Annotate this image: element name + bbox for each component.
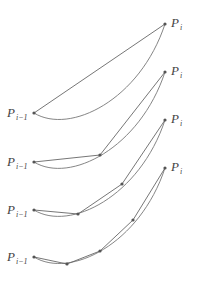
vertex-point: [98, 249, 101, 252]
vertex-point: [163, 166, 166, 169]
start-point-label: Pi−1: [6, 202, 28, 219]
vertex-point: [163, 70, 166, 73]
start-point-label: Pi−1: [6, 105, 28, 122]
vertex-point: [163, 22, 166, 25]
end-point-label: Pi: [170, 63, 182, 80]
vertex-point: [32, 255, 35, 258]
end-point-label: Pi: [170, 159, 182, 176]
start-point-label: Pi−1: [6, 249, 28, 266]
end-point-label: Pi: [170, 15, 182, 32]
vertex-point: [32, 111, 35, 114]
vertex-point: [76, 212, 79, 215]
vertex-point: [131, 218, 134, 221]
panel-2: Pi−1Pi: [6, 63, 182, 171]
panel-4: Pi−1Pi: [6, 159, 182, 266]
vertex-point: [120, 182, 123, 185]
end-point-label: Pi: [170, 111, 182, 128]
chord-polyline: [34, 24, 165, 113]
vertex-point: [32, 160, 35, 163]
vertex-point: [65, 262, 68, 265]
bezier-curve: [34, 24, 165, 119]
panel-1: Pi−1Pi: [6, 15, 182, 122]
vertex-point: [98, 153, 101, 156]
bezier-curve: [34, 168, 165, 263]
vertex-point: [32, 208, 35, 211]
vertex-point: [163, 118, 166, 121]
panel-3: Pi−1Pi: [6, 111, 182, 219]
diagram-canvas: Pi−1PiPi−1PiPi−1PiPi−1Pi: [0, 0, 197, 281]
start-point-label: Pi−1: [6, 154, 28, 171]
